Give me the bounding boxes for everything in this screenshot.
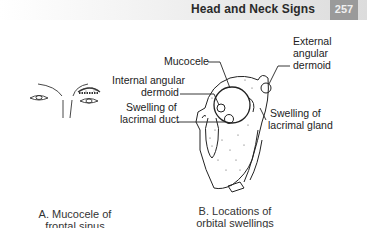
label-external-angular-3: dermoid xyxy=(293,60,331,71)
label-external-angular-2: angular xyxy=(293,48,328,59)
caption-a-line1: A. Mucocele of xyxy=(30,208,120,220)
label-lacrimal-duct-1: Swelling of xyxy=(126,102,177,113)
caption-b-line2: orbital swellings xyxy=(180,217,290,228)
label-lacrimal-gland-1: Swelling of xyxy=(270,108,321,119)
caption-a-line2: frontal sinus xyxy=(30,220,120,228)
label-lacrimal-gland-2: lacrimal gland xyxy=(268,120,333,131)
caption-b-line1: B. Locations of xyxy=(180,205,290,217)
label-external-angular-1: External xyxy=(293,36,332,47)
label-internal-angular-1: Internal angular xyxy=(112,75,185,86)
label-lacrimal-duct-2: lacrimal duct xyxy=(120,114,179,125)
label-internal-angular-2: dermoid xyxy=(141,87,179,98)
label-mucocele: Mucocele xyxy=(164,56,209,67)
